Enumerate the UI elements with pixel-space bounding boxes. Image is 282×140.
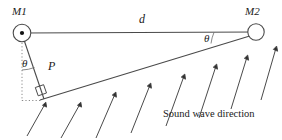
path-difference-label: P xyxy=(48,60,55,72)
distance-label: d xyxy=(139,13,145,25)
wave-arrow xyxy=(27,102,47,136)
wave-arrow xyxy=(96,92,116,138)
microphone-1-label: M1 xyxy=(12,6,27,17)
wavefront-line xyxy=(40,35,253,100)
figure-canvas: M1 M2 d θ θ P Sound wave direction xyxy=(0,0,282,140)
microphone-2-label: M2 xyxy=(245,6,260,17)
microphone-1-marker xyxy=(13,24,31,42)
theta-left-label: θ xyxy=(22,58,27,69)
microphone-2-marker xyxy=(248,24,264,40)
wave-arrow xyxy=(61,102,82,138)
wave-arrow xyxy=(261,46,278,100)
baseline-segment xyxy=(22,32,256,33)
wave-arrow xyxy=(131,83,151,133)
sound-wave-direction-caption: Sound wave direction xyxy=(163,109,255,120)
theta-arc-right xyxy=(211,32,214,43)
wave-arrow xyxy=(231,55,249,109)
theta-right-label: θ xyxy=(204,33,209,44)
